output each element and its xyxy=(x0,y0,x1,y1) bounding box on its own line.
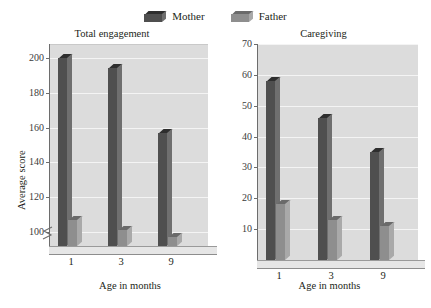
legend-swatch-mother-icon xyxy=(144,11,166,22)
bar-mother-9mo xyxy=(158,133,167,246)
legend-swatch-front-face xyxy=(144,14,162,22)
y-tick-mark xyxy=(46,128,50,129)
gridline xyxy=(258,106,418,107)
chart-legend: Mother Father xyxy=(0,10,431,22)
bar-front-face xyxy=(318,118,327,260)
y-tick-mark xyxy=(254,106,258,107)
y-tick-label: 50 xyxy=(226,101,252,111)
x-tick-label: 1 xyxy=(61,256,81,267)
bar-side-face xyxy=(77,216,82,246)
y-tick-label: 200 xyxy=(14,53,44,63)
bar-front-face xyxy=(276,204,285,260)
bar-front-face xyxy=(168,237,177,246)
gridline xyxy=(50,162,208,163)
bar-side-face xyxy=(117,64,122,246)
bar-front-face xyxy=(370,152,379,260)
chart-caregiving: Caregiving 10203040506070 139 Age in mon… xyxy=(216,28,431,308)
plot-floor xyxy=(257,260,425,269)
bar-side-face xyxy=(167,129,172,246)
chart-total-engagement: Total engagement Average score 100120140… xyxy=(4,28,220,308)
gridline xyxy=(258,137,418,138)
y-tick-label: 20 xyxy=(226,193,252,203)
y-tick-mark xyxy=(46,58,50,59)
bar-mother-1mo xyxy=(58,58,67,246)
chart-title: Total engagement xyxy=(4,28,220,39)
plot-floor xyxy=(49,246,217,255)
legend-label-father: Father xyxy=(259,10,287,22)
x-tick-label: 3 xyxy=(111,256,131,267)
y-tick-label: 70 xyxy=(226,39,252,49)
y-tick-label: 60 xyxy=(226,70,252,80)
y-tick-label: 160 xyxy=(14,123,44,133)
y-tick-mark xyxy=(46,93,50,94)
bar-father-3mo xyxy=(328,220,337,260)
gridline xyxy=(258,44,418,45)
y-tick-mark xyxy=(254,44,258,45)
legend-swatch-father-icon xyxy=(231,11,253,22)
y-tick-label: 140 xyxy=(14,157,44,167)
gridline xyxy=(258,75,418,76)
bar-father-1mo xyxy=(276,204,285,260)
legend-item-mother: Mother xyxy=(144,10,204,22)
bar-front-face xyxy=(266,81,275,260)
bar-father-9mo xyxy=(168,237,177,246)
y-tick-mark xyxy=(254,137,258,138)
bar-mother-3mo xyxy=(318,118,327,260)
y-axis-line xyxy=(257,44,258,266)
y-tick-mark xyxy=(254,167,258,168)
y-tick-mark xyxy=(46,197,50,198)
y-tick-label: 10 xyxy=(226,224,252,234)
charts-container: Total engagement Average score 100120140… xyxy=(0,28,431,308)
x-tick-label: 9 xyxy=(161,256,181,267)
bar-mother-3mo xyxy=(108,68,117,246)
plot-area xyxy=(50,44,208,246)
bar-mother-1mo xyxy=(266,81,275,260)
legend-item-father: Father xyxy=(231,10,287,22)
x-axis-title: Age in months xyxy=(22,280,238,291)
bar-front-face xyxy=(328,220,337,260)
y-tick-label: 100 xyxy=(14,227,44,237)
bar-front-face xyxy=(380,226,389,260)
legend-swatch-front-face xyxy=(231,14,249,22)
gridline xyxy=(50,128,208,129)
bar-side-face xyxy=(285,200,290,260)
plot-area xyxy=(258,44,418,260)
y-tick-mark xyxy=(46,162,50,163)
bar-front-face xyxy=(108,68,117,246)
bar-father-3mo xyxy=(118,230,127,246)
y-tick-label: 40 xyxy=(226,132,252,142)
gridline xyxy=(50,93,208,94)
y-tick-label: 30 xyxy=(226,162,252,172)
y-tick-mark xyxy=(254,198,258,199)
y-tick-mark xyxy=(254,229,258,230)
bar-front-face xyxy=(68,220,77,246)
bar-father-9mo xyxy=(380,226,389,260)
bar-side-face xyxy=(389,222,394,260)
bar-front-face xyxy=(118,230,127,246)
gridline xyxy=(258,167,418,168)
plot-top-edge xyxy=(50,44,208,45)
bar-front-face xyxy=(158,133,167,246)
y-tick-label: 120 xyxy=(14,192,44,202)
bar-front-face xyxy=(58,58,67,246)
x-axis-title: Age in months xyxy=(222,280,431,291)
axis-break-icon xyxy=(42,224,58,242)
y-tick-label: 180 xyxy=(14,88,44,98)
y-axis-line xyxy=(49,44,50,252)
legend-swatch-side-face xyxy=(162,10,166,21)
y-tick-mark xyxy=(254,75,258,76)
gridline xyxy=(50,197,208,198)
bar-father-1mo xyxy=(68,220,77,246)
bar-mother-9mo xyxy=(370,152,379,260)
bar-side-face xyxy=(337,216,342,260)
legend-label-mother: Mother xyxy=(172,10,204,22)
gridline xyxy=(50,58,208,59)
